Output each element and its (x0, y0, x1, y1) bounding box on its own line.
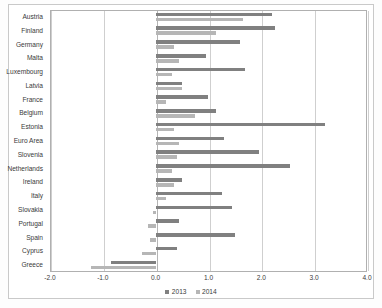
bar-row (50, 93, 367, 107)
category-label: France (0, 93, 48, 107)
category-label: Ireland (0, 175, 48, 189)
gridline (368, 11, 369, 271)
x-tick-label: 1.0 (204, 274, 213, 281)
bar-2013 (156, 68, 246, 72)
bar-2014 (91, 266, 156, 270)
bar-rows (50, 10, 367, 272)
bar-2013 (156, 13, 272, 17)
x-tick-label: 4.0 (362, 274, 371, 281)
bar-2014 (156, 169, 172, 173)
bar-2013 (156, 123, 325, 127)
bar-row (50, 175, 367, 189)
bar-row (50, 38, 367, 52)
bar-2013 (156, 137, 225, 141)
bar-2014 (156, 183, 174, 187)
bar-row (50, 106, 367, 120)
bar-2013 (111, 261, 156, 265)
bar-row (50, 148, 367, 162)
bar-row (50, 51, 367, 65)
category-label: Austria (0, 10, 48, 24)
bar-2013 (156, 150, 259, 154)
category-label: Portugal (0, 217, 48, 231)
x-tick-label: 3.0 (310, 274, 319, 281)
bar-2014 (156, 128, 174, 132)
x-tick-label: 0.0 (151, 274, 160, 281)
bar-2014 (156, 87, 182, 91)
bar-2014 (150, 238, 155, 242)
category-label: Belgium (0, 106, 48, 120)
bar-2013 (156, 109, 217, 113)
bar-row (50, 217, 367, 231)
bar-row (50, 203, 367, 217)
bar-2013 (156, 164, 291, 168)
category-label: Spain (0, 231, 48, 245)
bar-2014 (148, 224, 156, 228)
bar-row (50, 189, 367, 203)
bar-2014 (156, 45, 174, 49)
bar-row (50, 65, 367, 79)
legend-label: 2014 (202, 288, 217, 295)
legend-label: 2013 (172, 288, 187, 295)
bar-2013 (156, 82, 182, 86)
legend-item-2013: 2013 (165, 288, 186, 295)
bar-2014 (156, 100, 167, 104)
category-label: Finland (0, 24, 48, 38)
legend-item-2014: 2014 (196, 288, 217, 295)
legend-swatch-icon (196, 290, 200, 294)
category-axis-labels: AustriaFinlandGermanyMaltaLuxembourgLatv… (0, 10, 48, 272)
category-label: Netherlands (0, 162, 48, 176)
category-label: Greece (0, 258, 48, 272)
category-label: Malta (0, 51, 48, 65)
bar-2013 (156, 95, 209, 99)
x-tick-label: 2.0 (257, 274, 266, 281)
category-label: Slovenia (0, 148, 48, 162)
bar-2014 (156, 197, 167, 201)
bar-2014 (156, 73, 172, 77)
category-label: Estonia (0, 120, 48, 134)
bar-row (50, 244, 367, 258)
x-axis-tick-labels: -2.0-1.00.01.02.03.04.0 (50, 274, 367, 286)
bar-2014 (142, 252, 155, 256)
category-label: Italy (0, 189, 48, 203)
chart-legend: 20132014 (0, 288, 382, 295)
bar-2014 (156, 31, 217, 35)
category-label: Slovakia (0, 203, 48, 217)
bar-2014 (156, 114, 196, 118)
x-tick-label: -1.0 (97, 274, 108, 281)
bar-2013 (156, 26, 275, 30)
bar-2013 (156, 233, 235, 237)
bar-2014 (156, 142, 180, 146)
bar-2013 (156, 40, 241, 44)
bar-2013 (156, 178, 182, 182)
category-label: Cyprus (0, 244, 48, 258)
bar-row (50, 120, 367, 134)
legend-swatch-icon (165, 290, 169, 294)
bar-2013 (156, 54, 206, 58)
bar-2014 (156, 59, 180, 63)
bar-row (50, 79, 367, 93)
bar-2014 (156, 155, 177, 159)
bar-row (50, 24, 367, 38)
bar-2013 (156, 247, 177, 251)
bar-2013 (156, 219, 180, 223)
bar-2013 (156, 206, 233, 210)
bar-row (50, 162, 367, 176)
bar-2014 (156, 18, 243, 22)
bar-row (50, 10, 367, 24)
bar-row (50, 258, 367, 272)
category-label: Euro Area (0, 134, 48, 148)
bar-2013 (156, 192, 222, 196)
chart-container: AustriaFinlandGermanyMaltaLuxembourgLatv… (0, 0, 382, 308)
bar-2014 (153, 211, 156, 215)
x-tick-label: -2.0 (44, 274, 55, 281)
category-label: Latvia (0, 79, 48, 93)
bar-row (50, 134, 367, 148)
bar-row (50, 231, 367, 245)
category-label: Luxembourg (0, 65, 48, 79)
category-label: Germany (0, 38, 48, 52)
